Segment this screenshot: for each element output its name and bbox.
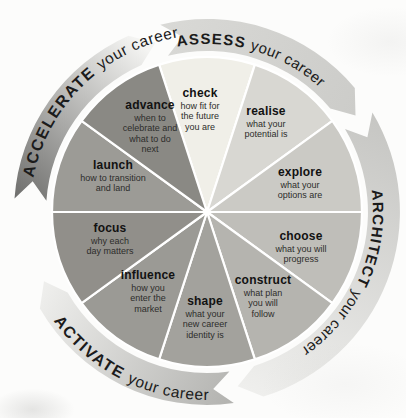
wheel-svg: ASSESSyour career ARCHITECTyour career A… bbox=[0, 0, 406, 418]
wheel bbox=[52, 57, 362, 367]
career-wheel-diagram: ASSESSyour career ARCHITECTyour career A… bbox=[0, 0, 406, 418]
